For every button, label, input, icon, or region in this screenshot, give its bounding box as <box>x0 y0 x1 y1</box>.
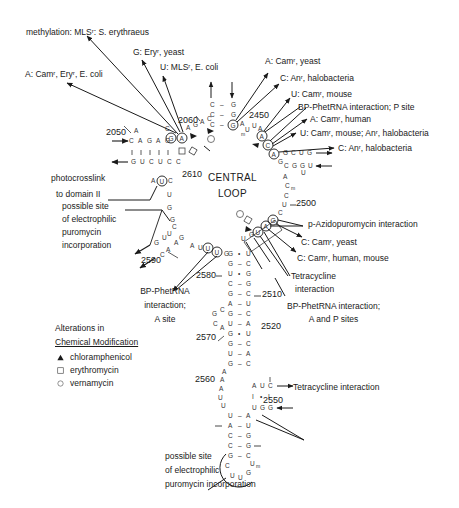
svg-text:A: A <box>283 173 288 180</box>
svg-text:A: A <box>219 385 224 392</box>
svg-text:U: U <box>246 250 251 257</box>
svg-text:C: C <box>168 177 173 184</box>
svg-text:U: U <box>160 178 165 185</box>
svg-text:C: C <box>246 360 251 367</box>
svg-text:G: G <box>260 404 265 411</box>
svg-text:•: • <box>238 270 241 277</box>
svg-text:I: I <box>252 393 254 400</box>
svg-text:G: G <box>231 122 236 129</box>
svg-text:–: – <box>238 300 242 307</box>
bases-2610: A U C U G G <box>108 176 175 223</box>
circled-bases-2504: C G A U G U <box>237 209 284 252</box>
annotation-c-an-halobacteria-1: C: Anʳ, halobacteria <box>280 73 354 83</box>
position-2550: 2550 <box>263 395 283 405</box>
svg-text:m: m <box>256 463 260 469</box>
svg-text:G: G <box>169 135 174 142</box>
svg-text:C: C <box>266 142 271 149</box>
svg-text:U: U <box>198 244 203 251</box>
svg-text:A: A <box>200 118 205 125</box>
annotation-a-cam-ery-ecoli: A: Camʳ, Eryʳ, E. coli <box>25 69 103 79</box>
svg-text:•: • <box>238 250 241 257</box>
annotation-u-mls-ecoli: U: MLSʳ, E. coli <box>160 62 218 72</box>
svg-text:A: A <box>246 320 251 327</box>
svg-text:–: – <box>238 350 242 357</box>
svg-text:A: A <box>151 177 156 184</box>
svg-text:U: U <box>246 330 251 337</box>
svg-text:U: U <box>245 126 250 133</box>
svg-text:G: G <box>228 250 233 257</box>
bp-phetrna-a-line2: interaction; <box>130 298 200 312</box>
svg-text:–: – <box>238 360 242 367</box>
svg-text:C: C <box>210 101 215 108</box>
svg-text:C: C <box>167 158 172 165</box>
svg-text:A: A <box>272 151 277 158</box>
svg-text:m: m <box>291 185 295 191</box>
svg-text:G: G <box>228 290 233 297</box>
svg-text:A: A <box>138 137 143 144</box>
svg-text:U: U <box>228 320 233 327</box>
svg-text:C: C <box>268 382 273 389</box>
svg-text:A: A <box>186 124 191 131</box>
svg-text:–: – <box>238 280 242 287</box>
svg-text:•: • <box>238 330 241 337</box>
svg-text:G: G <box>292 162 297 169</box>
annotation-c-cam-human-mouse: C: Camʳ, human, mouse <box>297 253 389 263</box>
svg-text:–: – <box>238 260 242 267</box>
svg-text:C: C <box>149 158 154 165</box>
svg-text:G: G <box>154 239 159 246</box>
svg-text:–: – <box>220 121 224 128</box>
possible-site-1-line2: of electrophilic <box>62 213 116 226</box>
svg-text:G: G <box>246 442 251 449</box>
position-2050: 2050 <box>106 127 126 137</box>
tetracycline-1-line1: Tetracycline <box>291 270 336 283</box>
svg-text:U: U <box>246 300 251 307</box>
annotation-a-cam-human: A: Camʳ, human <box>310 114 371 124</box>
svg-text:G: G <box>246 270 251 277</box>
svg-text:G: G <box>300 162 305 169</box>
svg-text:G: G <box>131 158 136 165</box>
svg-text:U: U <box>260 382 265 389</box>
svg-text:G: G <box>246 280 251 287</box>
possible-site-2-line1: possible site <box>165 449 256 463</box>
annotation-tetracycline-2: Tetracycline interaction <box>293 382 379 392</box>
legend-label-vernamycin: vernamycin <box>70 378 113 388</box>
svg-text:–: – <box>238 340 242 347</box>
position-2060: 2060 <box>178 115 198 125</box>
svg-text:C: C <box>176 158 181 165</box>
svg-text:A: A <box>222 368 227 375</box>
rrna-peptidyl-transferase-diagram: CAG AG AC GUC UCC G A A G A C A U C <box>0 0 459 508</box>
svg-text:A: A <box>252 382 257 389</box>
svg-text:G: G <box>179 234 184 241</box>
position-2510: 2510 <box>262 289 282 299</box>
svg-text:U: U <box>167 191 172 198</box>
svg-text:G: G <box>228 340 233 347</box>
svg-text:G: G <box>278 158 283 165</box>
svg-text:G: G <box>170 216 175 223</box>
svg-text:G: G <box>268 404 273 411</box>
central-label-line2: LOOP <box>208 186 257 202</box>
svg-text:C: C <box>213 320 218 327</box>
annotation-tetracycline-1: Tetracycline interaction <box>291 270 336 296</box>
svg-text:G: G <box>228 310 233 317</box>
svg-text:C: C <box>246 340 251 347</box>
legend-title-line2: Chemical Modification <box>55 336 138 348</box>
filled-triangle-icon <box>57 354 64 361</box>
svg-text:G: G <box>246 432 251 439</box>
possible-site-1-line3: puromycin <box>62 226 116 239</box>
svg-text:C: C <box>228 432 233 439</box>
svg-text:A: A <box>260 133 265 140</box>
svg-text:A: A <box>134 127 139 134</box>
svg-text:G: G <box>147 137 152 144</box>
annotation-bp-phetrna-p-site: BP-PhetRNA interaction; P site <box>298 102 415 112</box>
annotation-a-cam-yeast: A: Camʳ, yeast <box>265 56 320 66</box>
svg-text:–: – <box>238 422 242 429</box>
bp-phetrna-ap-line1: BP-PhetRNA interaction; <box>287 300 380 313</box>
annotation-bp-phetrna-a-p-sites: BP-PhetRNA interaction; A and P sites <box>287 300 380 326</box>
svg-text:U: U <box>228 412 233 419</box>
circled-bases-2451: A C A G <box>252 131 283 165</box>
possible-site-2-line2: of electrophilic <box>165 463 256 477</box>
position-2520: 2520 <box>261 321 281 331</box>
svg-text:G: G <box>231 111 236 118</box>
annotation-possible-site-2: possible site of electrophilic puromycin… <box>165 449 256 491</box>
svg-text:G: G <box>167 204 172 211</box>
